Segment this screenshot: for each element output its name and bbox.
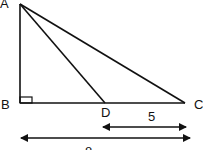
dimension-label-bc: 8 — [85, 144, 92, 150]
label-c: C — [194, 97, 203, 112]
label-d: D — [101, 105, 110, 120]
dimension-label-dc: 5 — [148, 109, 155, 124]
segment-ad — [20, 4, 105, 103]
right-angle-marker — [20, 97, 32, 103]
segment-ac — [20, 4, 185, 103]
label-b: B — [1, 97, 10, 112]
triangle-diagram: A B D C 5 8 — [0, 0, 203, 150]
label-a: A — [0, 0, 9, 11]
